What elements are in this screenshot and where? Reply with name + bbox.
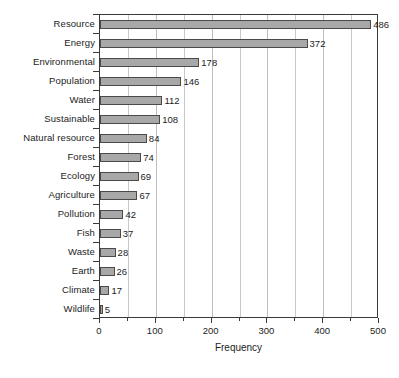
x-axis-minor-tick <box>294 318 295 321</box>
bar-row: 74 <box>100 148 377 167</box>
bar <box>100 191 137 200</box>
x-axis-major-tick <box>378 318 379 323</box>
bar-row: 26 <box>100 262 377 281</box>
bar-value-label: 146 <box>183 74 199 89</box>
x-axis-major-tick <box>155 318 156 323</box>
bar-row: 69 <box>100 167 377 186</box>
category-label: Earth <box>0 266 95 276</box>
bar-value-label: 372 <box>310 36 326 51</box>
x-axis-tick-labels: 0100200300400500 <box>99 325 378 339</box>
x-axis-tick-label: 400 <box>314 325 330 337</box>
bar-value-label: 67 <box>139 188 150 203</box>
bar-row: 178 <box>100 53 377 72</box>
bar <box>100 96 162 105</box>
bar-row: 372 <box>100 34 377 53</box>
x-axis-tick-label: 200 <box>203 325 219 337</box>
x-axis-major-tick <box>266 318 267 323</box>
bar-value-label: 17 <box>111 283 122 298</box>
bar-row: 486 <box>100 15 377 34</box>
bar-value-label: 28 <box>118 245 129 260</box>
bar-value-label: 108 <box>162 112 178 127</box>
bar-value-label: 37 <box>123 226 134 241</box>
bar-value-label: 26 <box>117 264 128 279</box>
bar <box>100 20 371 29</box>
bar-row: 112 <box>100 91 377 110</box>
category-label: Ecology <box>0 171 95 181</box>
bar-row: 146 <box>100 72 377 91</box>
category-label: Natural resource <box>0 133 95 143</box>
category-label: Waste <box>0 247 95 257</box>
bar <box>100 248 116 257</box>
bar-row: 67 <box>100 186 377 205</box>
category-label: Environmental <box>0 57 95 67</box>
category-label: Sustainable <box>0 114 95 124</box>
x-axis-tick-label: 300 <box>258 325 274 337</box>
category-label: Energy <box>0 38 95 48</box>
bar <box>100 77 181 86</box>
bar-row: 28 <box>100 243 377 262</box>
bar <box>100 39 308 48</box>
bar-row: 108 <box>100 110 377 129</box>
category-label: Water <box>0 95 95 105</box>
bar <box>100 134 147 143</box>
category-label: Fish <box>0 228 95 238</box>
bar <box>100 153 141 162</box>
bar <box>100 286 109 295</box>
bar <box>100 229 121 238</box>
x-axis-minor-tick <box>350 318 351 321</box>
bar <box>100 58 199 67</box>
plot-area: 4863721781461121088474696742372826175 <box>99 14 378 318</box>
bar-row: 17 <box>100 281 377 300</box>
category-label: Population <box>0 76 95 86</box>
bar-value-label: 112 <box>164 93 179 108</box>
category-label: Pollution <box>0 209 95 219</box>
category-label: Resource <box>0 19 95 29</box>
x-axis-ticks <box>99 318 378 323</box>
x-axis-major-tick <box>99 318 100 323</box>
category-label: Forest <box>0 152 95 162</box>
bar-row: 42 <box>100 205 377 224</box>
bar <box>100 172 139 181</box>
bar <box>100 305 103 314</box>
category-label: Agriculture <box>0 190 95 200</box>
x-axis-minor-tick <box>239 318 240 321</box>
x-axis-title: Frequency <box>99 341 378 354</box>
bar-value-label: 42 <box>125 207 136 222</box>
x-axis-minor-tick <box>127 318 128 321</box>
bar-value-label: 486 <box>373 17 389 32</box>
bar-value-label: 74 <box>143 150 154 165</box>
bars-layer: 4863721781461121088474696742372826175 <box>100 15 377 317</box>
x-axis-minor-tick <box>183 318 184 321</box>
bar-value-label: 84 <box>149 131 160 146</box>
category-label: Wildlife <box>0 304 95 314</box>
bar <box>100 115 160 124</box>
bar-value-label: 178 <box>201 55 217 70</box>
x-axis-major-tick <box>211 318 212 323</box>
bar <box>100 210 123 219</box>
bar-row: 37 <box>100 224 377 243</box>
bar-row: 5 <box>100 300 377 319</box>
frequency-bar-chart: ResourceEnergyEnvironmentalPopulationWat… <box>0 0 399 378</box>
category-axis: ResourceEnergyEnvironmentalPopulationWat… <box>0 14 95 318</box>
x-axis-major-tick <box>322 318 323 323</box>
bar-value-label: 69 <box>141 169 152 184</box>
category-label: Climate <box>0 285 95 295</box>
x-axis-tick-label: 100 <box>147 325 163 337</box>
bar-row: 84 <box>100 129 377 148</box>
bar <box>100 267 115 276</box>
x-axis-tick-label: 500 <box>370 325 386 337</box>
x-axis-tick-label: 0 <box>96 325 101 337</box>
bar-value-label: 5 <box>105 302 110 317</box>
